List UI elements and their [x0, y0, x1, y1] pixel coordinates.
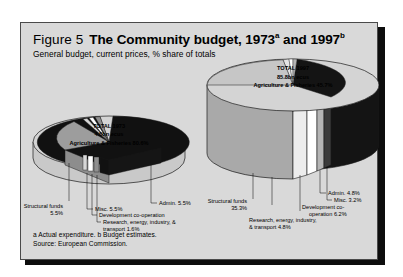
face-1973-research	[83, 155, 87, 170]
label-1997-value: 85.8bn ecus	[277, 74, 309, 80]
figure-screenshot: Figure 5 The Community budget, 1973a and…	[0, 0, 403, 277]
face-1997-research	[307, 103, 317, 175]
callout-1997-research-1: Research, energy, industry,	[249, 217, 317, 223]
footnote-line: a Actual expenditure. b Budget estimates…	[33, 231, 373, 238]
callout-1973-structural-pct: 5.5%	[50, 210, 63, 216]
callout-1997-misc: Misc. 3.2%	[334, 197, 361, 203]
charts-area: TOTAL 1973 4.5bn ecus Agriculture & Fish…	[21, 23, 379, 261]
face-1997-devcoop	[293, 107, 307, 179]
callout-1973-devcoop: Development co-operation	[99, 212, 165, 218]
pie-charts-svg: TOTAL 1973 4.5bn ecus Agriculture & Fish…	[21, 23, 379, 261]
callout-1997-structural-pct: 35.3%	[231, 205, 247, 211]
callout-1997-research-2: & transport 4.8%	[249, 224, 291, 230]
callout-1973-structural: Structural funds	[24, 203, 63, 209]
pie-1973: TOTAL 1973 4.5bn ecus Agriculture & Fish…	[24, 116, 191, 232]
callout-1973-research-1: Research, energy, industry, &	[103, 219, 176, 225]
face-1973-devcoop	[88, 156, 93, 171]
face-1997-misc	[317, 100, 324, 171]
source-line: Source: European Commission.	[33, 240, 373, 247]
callout-1997-devcoop-1: Development co-	[302, 204, 344, 210]
callout-1997-structural: Structural funds	[208, 198, 247, 204]
label-1973-total: TOTAL 1973	[93, 123, 125, 129]
label-1973-agriculture: Agriculture & Fisheries 80.6%	[70, 140, 149, 146]
face-1973-admin	[100, 158, 109, 176]
label-1997-total: TOTAL 1997	[277, 65, 309, 71]
figure-panel: Figure 5 The Community budget, 1973a and…	[20, 22, 378, 260]
callout-1997-admin: Admin. 4.8%	[328, 190, 360, 196]
label-1997-agriculture: Agriculture & Fisheries 45.7%	[254, 82, 333, 88]
label-1973-value: 4.5bn ecus	[95, 131, 124, 137]
pie-1997: TOTAL 1997 85.8bn ecus Agriculture & Fis…	[207, 59, 379, 230]
callout-1973-admin: Admin. 5.5%	[159, 200, 191, 206]
face-1973-misc	[94, 157, 99, 172]
callout-1997-devcoop-2: operation 6.2%	[309, 211, 347, 217]
